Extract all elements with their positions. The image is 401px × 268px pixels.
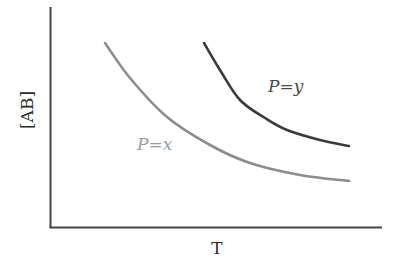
chart: P=y P=x T [AB]: [0, 0, 401, 268]
curve-p-x: [105, 43, 349, 181]
y-axis-title: [AB]: [17, 91, 37, 129]
curve-label-p-y: P=y: [267, 76, 304, 96]
x-axis-title: T: [211, 238, 223, 258]
curve-label-p-x: P=x: [136, 134, 173, 154]
